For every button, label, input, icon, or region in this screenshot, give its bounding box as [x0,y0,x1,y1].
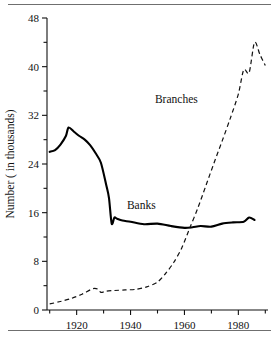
y-tick-label: 16 [28,207,40,219]
x-tick-label: 1940 [120,319,143,331]
y-tick-label: 0 [34,304,40,316]
x-tick-label: 1960 [173,319,196,331]
x-tick-label: 1920 [66,319,89,331]
chart-figure: 081624324048 1920194019601980 BanksBranc… [0,0,279,339]
series-label-banks: Banks [127,199,156,211]
y-tick-label: 24 [28,158,40,170]
series-label-branches: Branches [155,93,198,105]
y-tick-label: 32 [28,109,39,121]
y-tick-label: 40 [28,61,40,73]
series-annotations: BanksBranches [127,93,198,211]
series-line-branches [50,42,266,304]
x-tick-label: 1980 [227,319,250,331]
y-tick-label: 8 [34,255,40,267]
x-axis: 1920194019601980 [47,310,268,331]
line-chart-plot: 081624324048 1920194019601980 BanksBranc… [0,0,279,339]
series-line-banks [50,127,255,227]
y-tick-label: 48 [28,12,40,24]
y-axis-title: Number ( in thousands) [4,109,17,218]
y-axis: 081624324048 [28,12,47,316]
data-series-group [50,42,266,304]
